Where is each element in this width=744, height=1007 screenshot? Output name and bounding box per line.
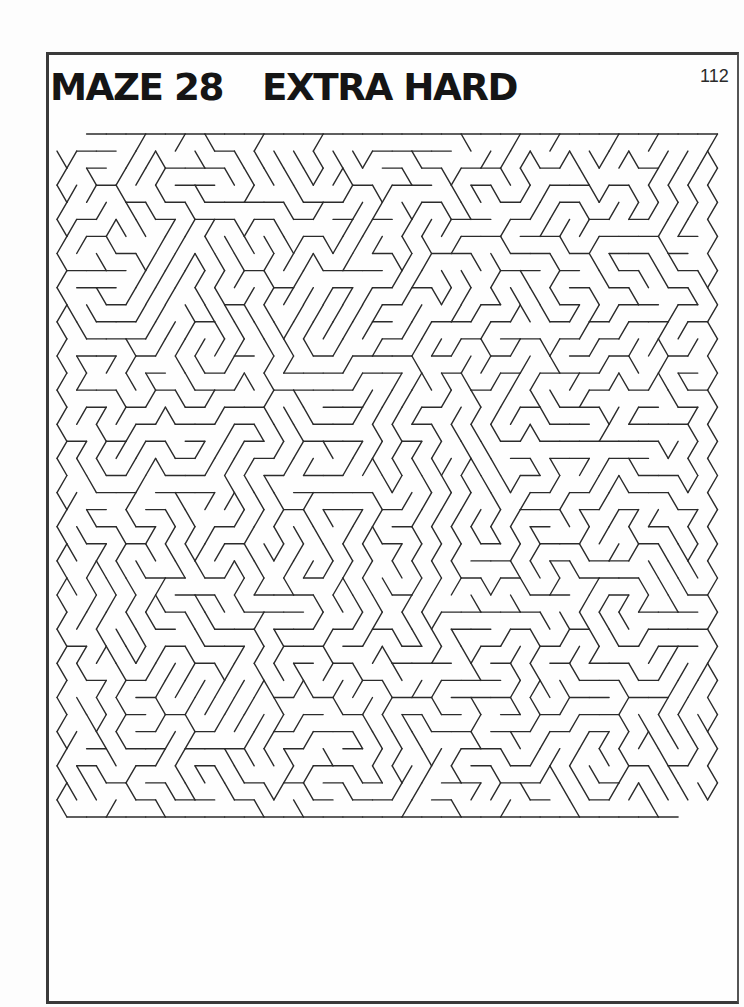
maze-wall	[264, 356, 274, 373]
maze-wall	[136, 219, 146, 236]
maze-wall	[649, 202, 659, 219]
maze-wall	[668, 595, 678, 612]
maze-wall	[560, 680, 570, 697]
maze-wall	[530, 749, 540, 766]
maze-wall	[156, 271, 166, 288]
maze-wall	[373, 493, 383, 510]
maze-wall	[580, 390, 590, 407]
maze-wall	[185, 646, 195, 663]
maze-wall	[87, 476, 97, 493]
maze-wall	[234, 151, 244, 168]
maze-wall	[284, 458, 294, 475]
maze-wall	[629, 202, 639, 219]
maze-wall	[491, 254, 501, 271]
maze-wall	[77, 373, 87, 390]
maze-wall	[57, 390, 67, 407]
maze-wall	[619, 715, 629, 732]
maze-wall	[363, 527, 373, 544]
maze-wall	[530, 698, 540, 715]
maze-wall	[96, 715, 106, 732]
maze-wall	[126, 356, 136, 373]
maze-wall	[471, 458, 481, 475]
maze-wall	[96, 646, 106, 663]
maze-wall	[649, 168, 659, 185]
maze-wall	[254, 493, 264, 510]
maze-wall	[57, 749, 67, 766]
maze-wall	[412, 510, 422, 527]
maze-wall	[708, 373, 718, 390]
maze-wall	[185, 544, 195, 561]
maze-wall	[116, 680, 126, 697]
maze-wall	[570, 715, 580, 732]
maze-wall	[274, 544, 284, 561]
maze-wall	[244, 698, 254, 715]
maze-wall	[461, 476, 471, 493]
maze-wall	[442, 373, 452, 390]
maze-wall	[77, 441, 87, 458]
maze-wall	[363, 561, 373, 578]
maze-wall	[304, 254, 314, 271]
maze-wall	[422, 612, 432, 629]
maze-wall	[708, 493, 718, 510]
maze-wall	[195, 441, 205, 458]
maze-wall	[599, 527, 609, 544]
maze-wall	[412, 544, 422, 561]
maze-wall	[57, 612, 67, 629]
maze-wall	[550, 356, 560, 373]
maze-wall	[639, 715, 649, 732]
maze-wall	[126, 288, 136, 305]
maze-wall	[294, 800, 304, 817]
maze-wall	[264, 783, 274, 800]
maze-wall	[87, 715, 97, 732]
maze-wall	[304, 288, 314, 305]
maze-wall	[185, 698, 195, 715]
maze-wall	[313, 527, 323, 544]
maze-wall	[658, 339, 668, 356]
maze-wall	[165, 663, 175, 680]
maze-wall	[126, 424, 136, 441]
maze-wall	[461, 373, 471, 390]
maze-wall	[609, 629, 619, 646]
maze-wall	[195, 680, 205, 697]
maze-wall	[619, 151, 629, 168]
maze-wall	[412, 561, 422, 578]
maze-wall	[304, 561, 314, 578]
maze-wall	[284, 236, 294, 253]
maze-wall	[57, 356, 67, 373]
maze-wall	[146, 373, 156, 390]
maze-wall	[136, 441, 146, 458]
maze-wall	[658, 441, 668, 458]
maze-wall	[284, 322, 294, 339]
maze-wall	[471, 390, 481, 407]
maze-wall	[156, 680, 166, 697]
maze-wall	[333, 305, 343, 322]
maze-wall	[343, 254, 353, 271]
maze-wall	[402, 595, 412, 612]
maze-wall	[195, 356, 205, 373]
maze-wall	[530, 390, 540, 407]
maze-wall	[589, 305, 599, 322]
maze-wall	[87, 185, 97, 202]
maze-wall	[363, 698, 373, 715]
maze-wall	[195, 185, 205, 202]
maze-wall	[442, 219, 452, 236]
maze-wall	[451, 561, 461, 578]
maze-wall	[471, 254, 481, 271]
maze-wall	[116, 390, 126, 407]
maze-wall	[708, 151, 718, 168]
maze-wall	[205, 612, 215, 629]
maze-wall	[491, 288, 501, 305]
maze-wall	[678, 219, 688, 236]
maze-wall	[560, 698, 570, 715]
maze-wall	[146, 612, 156, 629]
maze-wall	[274, 629, 284, 646]
maze-wall	[57, 407, 67, 424]
maze-wall	[422, 493, 432, 510]
maze-wall	[580, 510, 590, 527]
maze-wall	[96, 680, 106, 697]
maze-wall	[57, 629, 67, 646]
maze-wall	[165, 527, 175, 544]
maze-wall	[708, 202, 718, 219]
maze-wall	[560, 510, 570, 527]
maze-wall	[205, 219, 215, 236]
